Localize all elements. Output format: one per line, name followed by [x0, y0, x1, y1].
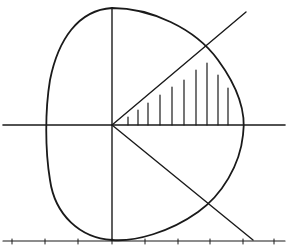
upper-ray [112, 12, 246, 125]
polar-curve [46, 8, 243, 240]
shaded-region-hatching [128, 63, 228, 125]
polar-region-diagram [0, 0, 288, 245]
bottom-baseline [3, 239, 285, 244]
